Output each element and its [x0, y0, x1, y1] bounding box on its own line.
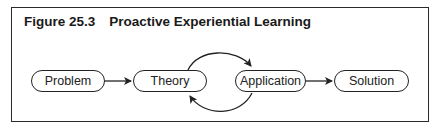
node-application: Application [235, 70, 306, 92]
node-problem: Problem [31, 70, 105, 92]
diagram-connectors [0, 0, 446, 134]
node-theory: Theory [133, 70, 207, 92]
node-solution: Solution [334, 70, 409, 92]
arrow-application-theory [190, 93, 252, 111]
arrow-theory-application [188, 53, 251, 70]
